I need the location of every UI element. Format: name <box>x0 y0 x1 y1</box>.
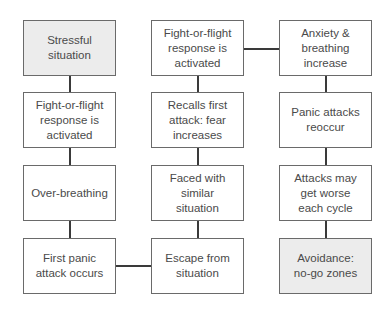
box-panic-attacks-reoccur: Panic attacks reoccur <box>279 92 372 148</box>
connector-c2-r2-r1 <box>197 76 199 93</box>
box-avoidance: Avoidance: no-go zones <box>279 238 372 294</box>
box-label: Avoidance: no-go zones <box>294 251 357 281</box>
connector-c1-r3-r4 <box>69 221 71 239</box>
box-label: Anxiety & breathing increase <box>301 26 350 71</box>
connector-c1-r1-r2 <box>69 76 71 93</box>
box-label: First panic attack occurs <box>36 251 104 281</box>
box-stressful-situation: Stressful situation <box>23 20 116 76</box>
box-label: Stressful situation <box>47 33 92 63</box>
box-label: Fight-or-flight response is activated <box>164 26 232 71</box>
box-first-panic-attack: First panic attack occurs <box>23 238 116 294</box>
box-attacks-get-worse: Attacks may get worse each cycle <box>279 165 372 221</box>
connector-c2-c3 <box>244 48 280 50</box>
connector-c3-r3-r4 <box>325 221 327 239</box>
box-label: Panic attacks reoccur <box>291 105 359 135</box>
box-fight-or-flight-1: Fight-or-flight response is activated <box>23 92 116 148</box>
box-label: Escape from situation <box>165 251 230 281</box>
connector-c2-r4-r3 <box>197 221 199 239</box>
box-anxiety-breathing: Anxiety & breathing increase <box>279 20 372 76</box>
connector-c3-r1-r2 <box>325 76 327 93</box>
box-recalls-first-attack: Recalls first attack: fear increases <box>151 92 244 148</box>
box-label: Recalls first attack: fear increases <box>168 98 227 143</box>
box-label: Attacks may get worse each cycle <box>294 171 357 216</box>
connector-c1-r2-r3 <box>69 148 71 166</box>
connector-c2-r3-r2 <box>197 148 199 166</box>
box-label: Over-breathing <box>31 186 108 201</box>
connector-c3-r2-r3 <box>325 148 327 166</box>
connector-c1-c2 <box>116 265 151 267</box>
box-label: Fight-or-flight response is activated <box>36 98 104 143</box>
box-label: Faced with similar situation <box>170 171 226 216</box>
box-fight-or-flight-2: Fight-or-flight response is activated <box>151 20 244 76</box>
box-escape-from-situation: Escape from situation <box>151 238 244 294</box>
box-faced-with-similar: Faced with similar situation <box>151 165 244 221</box>
box-over-breathing: Over-breathing <box>23 165 116 221</box>
